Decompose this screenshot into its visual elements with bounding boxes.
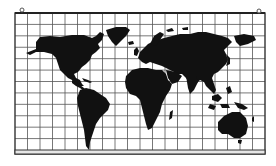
right-hook-icon [257, 9, 261, 13]
world-map-illustration [0, 0, 276, 166]
bottom-rail [15, 150, 265, 154]
left-hook-icon [20, 8, 24, 12]
world-map [0, 0, 276, 166]
